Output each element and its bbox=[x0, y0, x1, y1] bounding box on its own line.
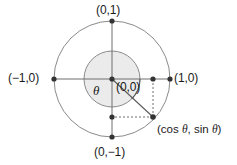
terminal-point-dot bbox=[150, 114, 156, 120]
label-point-bottom: (0,−1) bbox=[94, 146, 125, 158]
point-bottom-dot bbox=[109, 134, 114, 139]
point-right-dot bbox=[167, 76, 172, 81]
cos-projection-dot bbox=[150, 76, 155, 81]
label-point-top: (0,1) bbox=[96, 4, 120, 16]
unit-circle-figure: (0,1) (−1,0) (1,0) (0,−1) (0,0) θ (cos θ… bbox=[0, 0, 237, 165]
point-top-dot bbox=[109, 18, 114, 23]
label-point-right: (1,0) bbox=[174, 72, 198, 84]
label-theta: θ bbox=[93, 84, 99, 97]
terminal-mid: , sin bbox=[188, 123, 212, 135]
sin-projection-dot bbox=[109, 114, 114, 119]
label-point-left: (−1,0) bbox=[8, 72, 39, 84]
terminal-prefix: (cos bbox=[157, 123, 182, 135]
point-left-dot bbox=[51, 76, 56, 81]
label-terminal-point: (cos θ, sin θ) bbox=[157, 124, 221, 136]
label-origin: (0,0) bbox=[116, 81, 140, 93]
origin-dot bbox=[109, 76, 114, 81]
terminal-suffix: ) bbox=[218, 123, 222, 135]
